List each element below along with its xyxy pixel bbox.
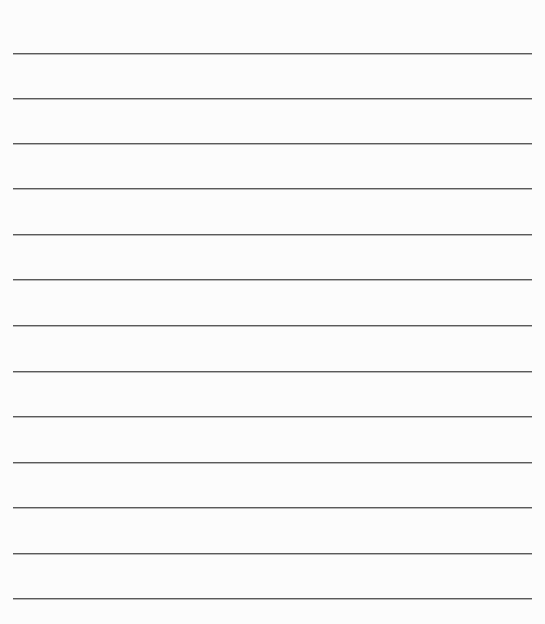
ruled-line	[13, 279, 532, 281]
ruled-line	[13, 507, 532, 509]
ruled-line	[13, 188, 532, 190]
lined-paper-page	[0, 0, 545, 624]
ruled-line	[13, 371, 532, 373]
ruled-line	[13, 143, 532, 145]
ruled-line	[13, 234, 532, 236]
ruled-line	[13, 416, 532, 418]
ruled-line	[13, 53, 532, 55]
ruled-line	[13, 98, 532, 100]
ruled-line	[13, 553, 532, 555]
ruled-line	[13, 325, 532, 327]
ruled-line	[13, 598, 532, 600]
ruled-line	[13, 462, 532, 464]
